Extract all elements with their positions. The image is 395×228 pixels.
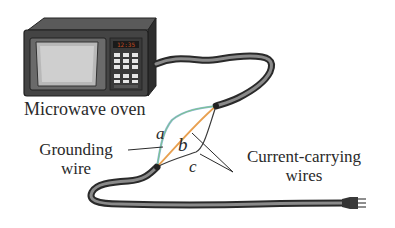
label-wire-b: b (178, 136, 188, 153)
label-current-line2: wires (232, 167, 376, 184)
plug-icon (342, 197, 366, 209)
label-microwave-oven: Microwave oven (24, 101, 145, 118)
label-current-carrying-wires: Current-carrying wires (232, 148, 376, 184)
svg-text:12:35: 12:35 (117, 41, 135, 48)
label-grounding-wire: Grounding wire (28, 141, 124, 177)
label-wire-a: a (156, 125, 165, 142)
label-grounding-line1: Grounding (28, 141, 124, 158)
label-grounding-line2: wire (28, 160, 124, 177)
microwave-oven-icon: 12:35 (24, 18, 156, 96)
label-wire-c: c (189, 158, 197, 175)
label-current-line1: Current-carrying (232, 148, 376, 165)
